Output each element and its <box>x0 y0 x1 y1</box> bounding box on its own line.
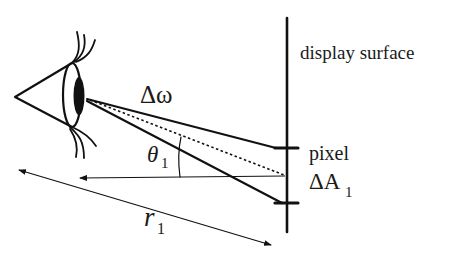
eye-display-geometry-diagram: display surface Δω θ 1 pixel ΔA 1 r 1 <box>0 0 466 263</box>
angle-arc <box>179 137 181 177</box>
center-ray <box>90 100 284 175</box>
area-symbol: ΔA <box>309 169 341 194</box>
solid-angle-rays <box>87 99 282 203</box>
pixel-label: pixel <box>309 142 349 165</box>
angle-subscript: 1 <box>161 155 169 171</box>
angle-label: θ 1 <box>147 142 169 171</box>
area-label: ΔA 1 <box>309 169 353 200</box>
distance-subscript: 1 <box>157 220 165 237</box>
area-subscript: 1 <box>345 184 353 200</box>
distance-symbol: r <box>144 202 155 232</box>
normal-arrow <box>80 176 285 178</box>
distance-label: r 1 <box>144 202 165 237</box>
eye-icon <box>15 32 96 158</box>
solid-angle-label: Δω <box>140 81 173 108</box>
display-surface-label: display surface <box>300 42 414 63</box>
angle-symbol: θ <box>147 142 158 167</box>
